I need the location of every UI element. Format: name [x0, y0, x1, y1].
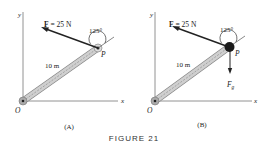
- length-label: 10 m: [45, 62, 60, 70]
- angle-label: 125°: [89, 27, 103, 35]
- figure-caption: FIGURE 21: [109, 134, 159, 143]
- figure-canvas: y x O P F = 25 N 125° 10 m (A) y x O P F…: [0, 0, 269, 146]
- force-label: F = 25 N: [169, 20, 197, 29]
- panel-b: y x O P F = 25 N 125° 10 m Fg (B): [147, 11, 258, 129]
- y-axis-label: y: [17, 11, 22, 19]
- x-axis-label: x: [253, 97, 258, 105]
- x-axis-label: x: [120, 97, 125, 105]
- y-axis-label: y: [149, 11, 154, 19]
- origin-label: O: [147, 106, 153, 115]
- panel-a: y x O P F = 25 N 125° 10 m (A): [15, 11, 125, 131]
- pivot-o-center: [22, 100, 25, 103]
- gravity-subscript: g: [232, 84, 235, 90]
- length-label: 10 m: [176, 61, 191, 69]
- force-value: = 25 N: [49, 20, 72, 29]
- pivot-o-center: [154, 100, 157, 103]
- panel-b-label: (B): [197, 121, 207, 129]
- force-value: = 25 N: [174, 20, 197, 29]
- gravity-label: Fg: [226, 80, 235, 90]
- panel-a-label: (A): [64, 123, 74, 131]
- point-mass: [225, 42, 235, 52]
- point-p-label: P: [100, 50, 106, 59]
- gravity-arrowhead-icon: [228, 68, 232, 74]
- angle-label: 125°: [220, 26, 234, 34]
- origin-label: O: [15, 106, 21, 115]
- force-label: F = 25 N: [44, 20, 72, 29]
- point-p-label: P: [234, 49, 240, 58]
